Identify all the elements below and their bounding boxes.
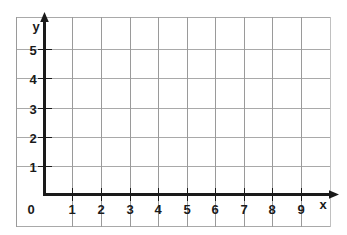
coordinate-grid-figure: 5 4 3 2 1 1 2 3 4 5 6 7 8 9 0 y x [0, 0, 347, 235]
x-tick-label-7: 7 [240, 202, 247, 217]
y-tick-label-4: 4 [29, 72, 37, 87]
x-tick-label-1: 1 [68, 202, 75, 217]
origin-label: 0 [27, 202, 34, 217]
x-tick-label-2: 2 [97, 202, 104, 217]
x-tick-label-6: 6 [211, 202, 218, 217]
figure-background [0, 0, 347, 235]
x-tick-label-5: 5 [183, 202, 190, 217]
x-axis-tick-labels: 1 2 3 4 5 6 7 8 9 [68, 202, 304, 217]
y-tick-label-1: 1 [29, 160, 36, 175]
x-tick-label-3: 3 [126, 202, 133, 217]
y-tick-label-3: 3 [29, 102, 36, 117]
coordinate-plane-svg: 5 4 3 2 1 1 2 3 4 5 6 7 8 9 0 y x [0, 0, 347, 235]
y-axis-name-label: y [32, 19, 40, 34]
x-tick-label-9: 9 [297, 202, 304, 217]
y-tick-label-5: 5 [29, 43, 36, 58]
x-tick-label-4: 4 [154, 202, 162, 217]
y-tick-label-2: 2 [29, 131, 36, 146]
x-axis-name-label: x [319, 197, 327, 212]
x-tick-label-8: 8 [268, 202, 275, 217]
